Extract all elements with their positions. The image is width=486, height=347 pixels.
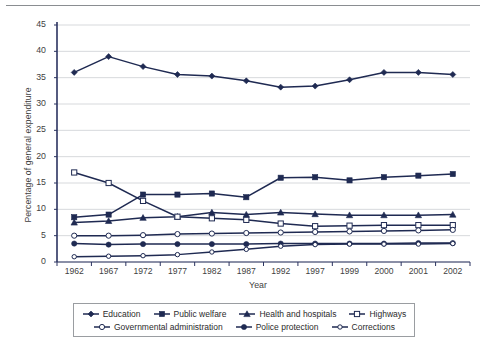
x-axis-tick-2002: 2002 — [433, 266, 473, 276]
series-highways — [72, 170, 456, 229]
chart-area: Percentage of general expenditure Year — [0, 0, 486, 347]
legend-swatch-filled-diamond — [82, 309, 100, 319]
legend-item-governmental-administration[interactable]: Governmental administration — [93, 322, 223, 332]
legend-item-public-welfare[interactable]: Public welfare — [153, 309, 227, 319]
legend-label: Public welfare — [174, 309, 227, 319]
y-axis-tick-30: 30 — [20, 99, 46, 108]
x-axis-label: Year — [48, 280, 468, 290]
legend-swatch-filled-square — [153, 309, 171, 319]
y-axis-tick-45: 45 — [20, 20, 46, 29]
legend-item-education[interactable]: Education — [82, 309, 141, 319]
y-axis-tick-15: 15 — [20, 178, 46, 187]
series-education — [71, 54, 456, 91]
y-axis-tick-10: 10 — [20, 204, 46, 213]
legend-marker-icon — [153, 309, 171, 319]
series-governmental-administration — [72, 227, 456, 238]
legend-swatch-hollow-square — [348, 309, 366, 319]
y-axis-tick-20: 20 — [20, 152, 46, 161]
legend-label: Education — [103, 309, 141, 319]
y-axis-tick-40: 40 — [20, 46, 46, 55]
legend-item-police-protection[interactable]: Police protection — [235, 322, 319, 332]
series-health-and-hospitals — [71, 209, 456, 225]
legend-swatch-hollow-circle-small — [331, 322, 349, 332]
legend-swatch-filled-triangle — [238, 309, 256, 319]
legend-item-corrections[interactable]: Corrections — [331, 322, 395, 332]
legend-marker-icon — [93, 322, 111, 332]
y-axis-tick-0: 0 — [20, 257, 46, 266]
line-chart-plot — [0, 0, 486, 347]
legend-swatch-filled-circle — [235, 322, 253, 332]
legend-row-1: EducationPublic welfareHealth and hospit… — [78, 307, 410, 320]
legend-row-2: Governmental administrationPolice protec… — [78, 320, 410, 333]
legend-label: Highways — [369, 309, 406, 319]
legend-label: Corrections — [352, 322, 395, 332]
y-axis-tick-5: 5 — [20, 231, 46, 240]
series-public-welfare — [72, 171, 456, 219]
chart-legend: EducationPublic welfareHealth and hospit… — [73, 303, 415, 337]
legend-marker-icon — [238, 309, 256, 319]
legend-marker-icon — [331, 322, 349, 332]
legend-label: Health and hospitals — [259, 309, 336, 319]
y-axis-tick-35: 35 — [20, 73, 46, 82]
legend-item-highways[interactable]: Highways — [348, 309, 406, 319]
legend-label: Police protection — [256, 322, 319, 332]
y-axis-tick-25: 25 — [20, 125, 46, 134]
legend-marker-icon — [348, 309, 366, 319]
legend-marker-icon — [235, 322, 253, 332]
legend-marker-icon — [82, 309, 100, 319]
legend-item-health-and-hospitals[interactable]: Health and hospitals — [238, 309, 336, 319]
legend-swatch-hollow-circle — [93, 322, 111, 332]
legend-label: Governmental administration — [114, 322, 223, 332]
figure-container: Percentage of general expenditure Year E… — [0, 0, 486, 347]
